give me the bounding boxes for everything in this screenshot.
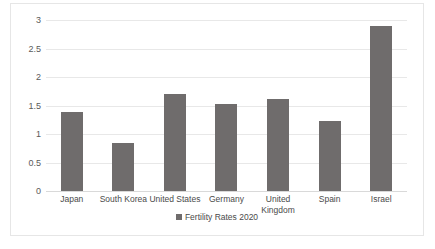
bar-slot (201, 20, 253, 191)
y-axis-tick-label: 2 (36, 73, 41, 82)
y-axis-tick-label: 1.5 (28, 101, 41, 110)
x-axis-tick-label: United States (149, 194, 201, 205)
x-axis-tick-label: Spain (304, 194, 356, 205)
x-axis-tick-label: Israel (355, 194, 407, 205)
bar-slot (304, 20, 356, 191)
bar-slot (46, 20, 98, 191)
bar-slot (98, 20, 150, 191)
chart-container: 00.511.522.53 JapanSouth KoreaUnited Sta… (10, 3, 424, 236)
bar (112, 143, 134, 191)
y-axis-tick-label: 0.5 (28, 158, 41, 167)
y-axis-tick-label: 3 (36, 16, 41, 25)
bar (370, 26, 392, 191)
bar-slot (149, 20, 201, 191)
bar (61, 112, 83, 191)
gridline (46, 191, 407, 192)
bar-slot (252, 20, 304, 191)
legend-swatch-icon (176, 214, 182, 220)
bar (215, 104, 237, 191)
bar-series (46, 20, 407, 191)
bar (319, 121, 341, 191)
legend-entry-label: Fertility Rates 2020 (185, 213, 258, 222)
y-axis-tick-label: 0 (36, 187, 41, 196)
y-axis-tick-label: 1 (36, 130, 41, 139)
chart-legend: Fertility Rates 2020 (11, 213, 423, 222)
y-axis-tick-label: 2.5 (28, 44, 41, 53)
bar-slot (355, 20, 407, 191)
bar (164, 94, 186, 191)
bar (267, 99, 289, 191)
x-axis-tick-label: South Korea (98, 194, 150, 205)
plot-area: 00.511.522.53 (46, 20, 407, 191)
x-axis-tick-label: Japan (46, 194, 98, 205)
x-axis-tick-label: Germany (201, 194, 253, 205)
